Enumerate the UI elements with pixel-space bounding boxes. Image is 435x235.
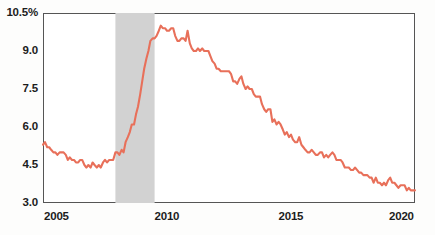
recession-band [115,13,154,203]
x-tick-label-3: 2020 [389,211,414,223]
x-tick-label-1: 2010 [155,211,180,223]
series-line-0 [43,26,415,191]
y-tick-label-0: 3.0 [0,197,38,209]
y-tick-label-1: 4.5 [0,159,38,171]
y-tick-label-2: 6.0 [0,121,38,133]
y-tick-label-5: 10.5% [0,7,38,19]
y-tick-label-4: 9.0 [0,45,38,57]
x-tick-label-2: 2015 [279,211,304,223]
chart-canvas [0,0,435,235]
unemployment-rate-chart: 3.04.56.07.59.010.5% 2005201020152020 [0,0,435,235]
x-tick-label-0: 2005 [44,211,69,223]
y-tick-label-3: 7.5 [0,83,38,95]
recession-bands [115,13,154,203]
series-lines [43,26,415,191]
